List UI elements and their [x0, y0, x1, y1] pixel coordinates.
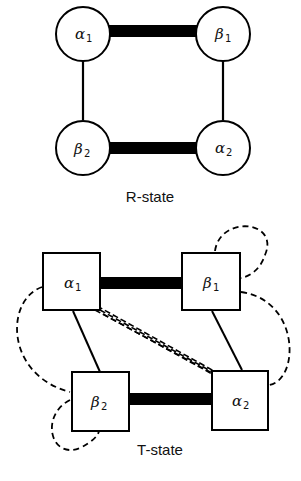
r-state-group: α 1 β 1 β 2 α 2 R-state	[56, 7, 250, 205]
r-node-alpha2: α 2	[196, 121, 250, 175]
r-alpha2-subscript: 2	[226, 147, 232, 158]
t-alpha1-symbol: α	[64, 274, 74, 292]
r-alpha1-symbol: α	[75, 25, 85, 43]
t-alpha1-subscript: 1	[75, 282, 81, 293]
r-node-alpha1: α 1	[56, 7, 110, 61]
r-beta1-subscript: 1	[225, 33, 231, 44]
r-beta2-subscript: 2	[84, 148, 90, 159]
t-alpha2-symbol: α	[232, 392, 242, 410]
r-beta1-symbol: β	[214, 25, 224, 43]
r-beta2-symbol: β	[73, 140, 83, 158]
t-alpha2-subscript: 2	[243, 400, 249, 411]
r-node-beta2: β 2	[56, 121, 110, 175]
t-node-alpha2: α 2	[212, 371, 268, 430]
r-alpha1-subscript: 1	[86, 33, 92, 44]
t-node-alpha1: α 1	[43, 253, 100, 310]
hemoglobin-subunit-diagram: α 1 β 1 β 2 α 2 R-state	[0, 0, 301, 481]
t-state-group: α 1 β 1 β 2 α 2 T-state	[17, 226, 290, 458]
t-node-beta2: β 2	[72, 372, 129, 431]
r-state-caption: R-state	[126, 188, 174, 205]
t-beta1-symbol: β	[202, 274, 212, 292]
t-beta2-symbol: β	[90, 393, 100, 411]
t-beta2-subscript: 2	[101, 401, 107, 412]
t-beta1-subscript: 1	[213, 282, 219, 293]
t-state-caption: T-state	[137, 441, 183, 458]
t-bond-alpha1-beta2	[73, 311, 100, 372]
t-bond-alpha1-alpha2-triple-dashed	[95, 306, 216, 375]
t-node-beta1: β 1	[182, 253, 240, 310]
t-bond-beta1-alpha2	[212, 311, 242, 370]
r-alpha2-symbol: α	[215, 139, 225, 157]
r-node-beta1: β 1	[196, 7, 250, 61]
